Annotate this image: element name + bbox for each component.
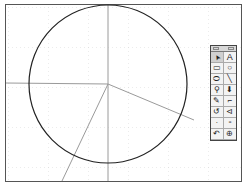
tool-ellipse[interactable]: ⬭ (211, 74, 224, 85)
magnifier-icon: ⊕ (226, 130, 233, 138)
dilate-icon: · (215, 119, 218, 127)
tool-line[interactable]: ╲ (224, 74, 237, 85)
translate-icon: ⁃ (228, 119, 232, 127)
zoom-box-icon[interactable] (228, 47, 234, 50)
tool-rectangle[interactable]: ▭ (211, 63, 224, 74)
tool-translate[interactable]: ⁃ (224, 118, 237, 129)
tool-circle[interactable]: ○ (224, 63, 237, 74)
polygon-icon: ⌐ (227, 97, 232, 105)
tool-polygon[interactable]: ⌐ (224, 96, 237, 107)
pencil-icon: ✎ (213, 97, 220, 105)
tool-palette[interactable]: ➤ A ▭ ○ ⬭ ╲ ⚲ ⬇ ✎ ⌐ ↺ ⊲ · ⁃ ↶ ⊕ (210, 45, 237, 141)
text-icon: A (227, 53, 233, 62)
point-icon: ⬇ (226, 86, 233, 94)
tool-pencil[interactable]: ✎ (211, 96, 224, 107)
rotate-icon: ↺ (213, 108, 220, 116)
tool-grid: ➤ A ▭ ○ ⬭ ╲ ⚲ ⬇ ✎ ⌐ ↺ ⊲ · ⁃ ↶ ⊕ (211, 52, 236, 140)
tool-rotate[interactable]: ↺ (211, 107, 224, 118)
ellipse-icon: ⬭ (213, 75, 220, 83)
tool-point[interactable]: ⬇ (224, 85, 237, 96)
compass-icon: ⚲ (214, 86, 220, 94)
arrow-pointer-icon: ➤ (212, 53, 221, 62)
dotted-grid (6, 5, 241, 181)
tool-reflect[interactable]: ⊲ (224, 107, 237, 118)
rectangle-icon: ▭ (213, 64, 221, 72)
tool-dilate[interactable]: · (211, 118, 224, 129)
undo-icon: ↶ (213, 130, 220, 138)
tool-zoom[interactable]: ⊕ (224, 129, 237, 140)
tool-compass[interactable]: ⚲ (211, 85, 224, 96)
tool-select-arrow[interactable]: ➤ (211, 52, 224, 63)
close-box-icon[interactable] (213, 47, 219, 50)
circle-icon: ○ (227, 64, 232, 72)
reflect-icon: ⊲ (226, 108, 233, 116)
tool-undo[interactable]: ↶ (211, 129, 224, 140)
line-icon: ╲ (227, 75, 232, 83)
tool-text[interactable]: A (224, 52, 237, 63)
